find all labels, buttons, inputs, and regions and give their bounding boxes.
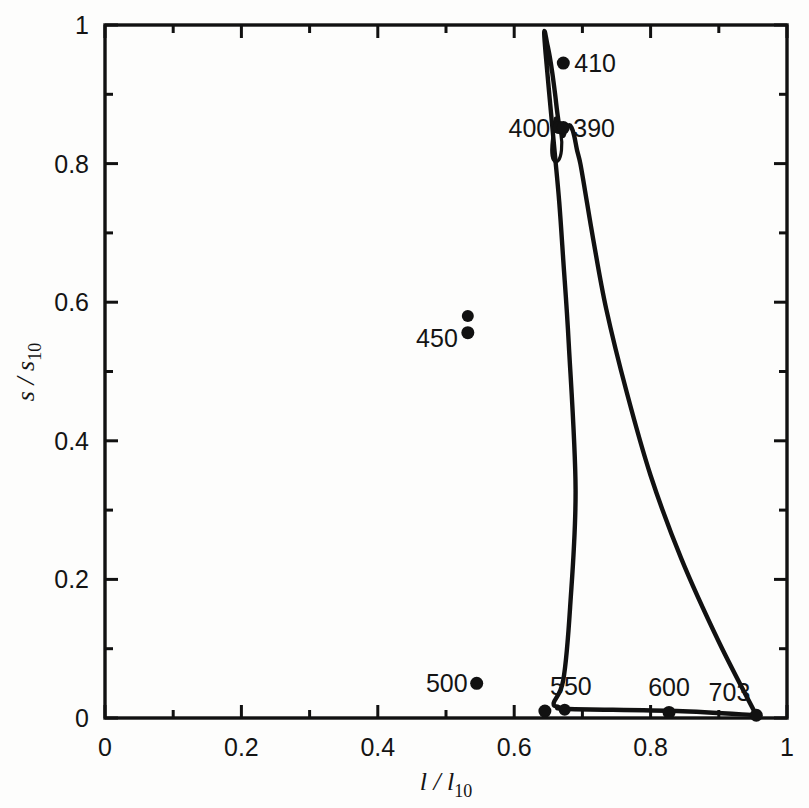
wavelength-label-600: 600 (648, 673, 690, 701)
marker-410 (557, 57, 570, 70)
marker-390 (557, 121, 570, 134)
marker-extra-1 (559, 704, 571, 716)
x-tick-label: 0.8 (633, 733, 668, 761)
wavelength-label-500: 500 (426, 669, 468, 697)
x-tick-label: 0.2 (224, 733, 259, 761)
figure-canvas: 00.20.40.60.81 00.20.40.60.81 4104003904… (0, 0, 809, 808)
x-tick-label: 1 (780, 733, 794, 761)
data-point-markers (461, 57, 762, 722)
y-tick-label: 0.4 (54, 427, 89, 455)
x-tick-label: 0 (98, 733, 112, 761)
plot-frame (105, 25, 787, 718)
wavelength-label-410: 410 (574, 49, 616, 77)
y-tick-label: 0.2 (54, 565, 89, 593)
wavelength-label-400: 400 (508, 114, 550, 142)
marker-600 (663, 706, 676, 719)
marker-703 (750, 709, 763, 722)
marker-450 (461, 326, 474, 339)
wavelength-annotations: 410400390450500550600703 (416, 49, 750, 706)
x-axis-title: l / l10 (420, 767, 473, 801)
wavelength-label-390: 390 (573, 114, 615, 142)
y-tick-label: 0.8 (54, 150, 89, 178)
y-axis-tick-labels: 00.20.40.60.81 (54, 11, 89, 732)
wavelength-label-550: 550 (550, 672, 592, 700)
wavelength-label-450: 450 (416, 324, 458, 352)
y-axis-title: s / s10 (11, 343, 45, 401)
axis-ticks (105, 25, 787, 718)
wavelength-label-703: 703 (709, 678, 751, 706)
x-tick-label: 0.4 (360, 733, 395, 761)
chromaticity-chart: 00.20.40.60.81 00.20.40.60.81 4104003904… (0, 0, 809, 808)
y-tick-label: 1 (75, 11, 89, 39)
y-tick-label: 0 (75, 704, 89, 732)
x-axis-tick-labels: 00.20.40.60.81 (98, 733, 794, 761)
marker-550 (538, 705, 551, 718)
marker-extra-0 (462, 310, 474, 322)
marker-500 (470, 677, 483, 690)
x-tick-label: 0.6 (497, 733, 532, 761)
y-tick-label: 0.6 (54, 288, 89, 316)
